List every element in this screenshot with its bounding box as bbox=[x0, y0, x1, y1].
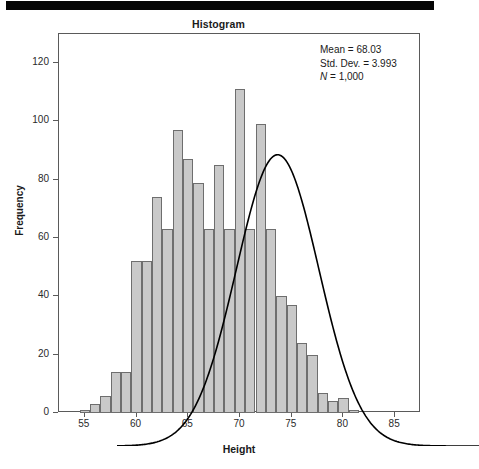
y-tick-label: 100 bbox=[17, 114, 49, 125]
histogram-bar bbox=[90, 404, 100, 413]
stddev-label: Std. Dev. = 3.993 bbox=[320, 57, 397, 71]
x-tick-label: 80 bbox=[322, 418, 362, 429]
histogram-bar bbox=[297, 343, 307, 413]
page-title: Histogram bbox=[0, 18, 437, 30]
histogram-bar bbox=[111, 372, 121, 413]
histogram-bar bbox=[162, 229, 172, 413]
histogram-bar bbox=[328, 401, 338, 413]
x-tick-label: 70 bbox=[219, 418, 259, 429]
x-tick-mark bbox=[394, 412, 395, 417]
y-tick-mark bbox=[53, 412, 58, 413]
histogram-bar bbox=[349, 410, 359, 413]
y-tick-label: 120 bbox=[17, 56, 49, 67]
y-tick-label: 20 bbox=[17, 348, 49, 359]
x-tick-label: 75 bbox=[271, 418, 311, 429]
x-tick-label: 60 bbox=[116, 418, 156, 429]
histogram-bar bbox=[235, 89, 245, 413]
histogram-bar bbox=[80, 410, 90, 413]
y-tick-label: 0 bbox=[17, 406, 49, 417]
histogram-bar bbox=[142, 261, 152, 413]
histogram-bar bbox=[338, 398, 348, 413]
histogram-bar bbox=[287, 305, 297, 413]
x-tick-label: 55 bbox=[64, 418, 104, 429]
histogram-bar bbox=[245, 229, 255, 413]
histogram-bar bbox=[266, 229, 276, 413]
histogram-bar bbox=[214, 165, 224, 413]
histogram-bar bbox=[307, 355, 317, 413]
histogram-bar bbox=[256, 124, 266, 413]
plot-area bbox=[58, 33, 420, 412]
histogram-bar bbox=[131, 261, 141, 413]
sample-size-label: N = 1,000 bbox=[320, 70, 397, 84]
histogram-bar bbox=[193, 183, 203, 413]
mean-label: Mean = 68.03 bbox=[320, 43, 397, 57]
x-axis-title: Height bbox=[58, 443, 420, 455]
histogram-bar bbox=[121, 372, 131, 413]
histogram-bar bbox=[224, 229, 234, 413]
histogram-bar bbox=[100, 396, 110, 413]
x-tick-label: 65 bbox=[167, 418, 207, 429]
histogram-bar bbox=[318, 393, 328, 413]
y-tick-label: 80 bbox=[17, 173, 49, 184]
y-tick-label: 40 bbox=[17, 289, 49, 300]
histogram-bar bbox=[276, 296, 286, 413]
statistics-annotation: Mean = 68.03 Std. Dev. = 3.993 N = 1,000 bbox=[320, 43, 397, 84]
histogram-bar bbox=[204, 229, 214, 413]
y-tick-label: 60 bbox=[17, 231, 49, 242]
histogram-bar bbox=[183, 159, 193, 413]
histogram-bar bbox=[152, 197, 162, 413]
histogram-bar bbox=[173, 130, 183, 413]
x-tick-label: 85 bbox=[374, 418, 414, 429]
